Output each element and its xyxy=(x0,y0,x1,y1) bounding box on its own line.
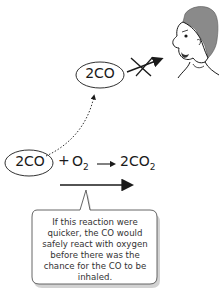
product-base: 2CO xyxy=(120,153,150,169)
callout-text: If this reaction were quicker, the CO wo… xyxy=(34,217,156,283)
blocked-arrow-icon xyxy=(127,58,161,76)
co-molecule-label: 2CO xyxy=(76,65,124,81)
oxygen-subscript: 2 xyxy=(83,162,89,172)
dotted-curve-arrow-icon xyxy=(46,96,94,156)
oxygen-base: O xyxy=(72,153,83,169)
product-subscript: 2 xyxy=(150,162,156,172)
oxygen-label: O2 xyxy=(72,153,89,172)
plus-sign: + xyxy=(58,152,70,168)
reactant-co-label: 2CO xyxy=(5,153,55,169)
person-face-icon xyxy=(173,7,219,78)
product-co2-label: 2CO2 xyxy=(120,153,155,172)
